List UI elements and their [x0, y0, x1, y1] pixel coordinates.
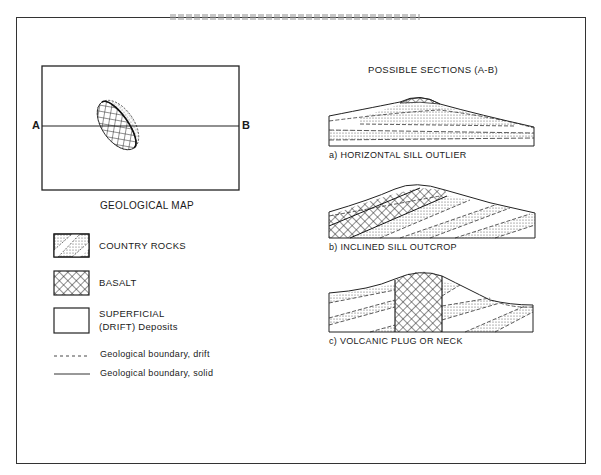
- legend-label-boundary-solid: Geological boundary, solid: [100, 368, 213, 378]
- legend-label-country-rocks: COUNTRY ROCKS: [99, 240, 186, 251]
- diagram-artwork: [0, 0, 601, 475]
- geological-map: [42, 66, 239, 190]
- legend-label-boundary-drift: Geological boundary, drift: [100, 349, 210, 359]
- section-b-artwork: [329, 185, 535, 238]
- section-c-artwork: [329, 272, 533, 332]
- map-title: GEOLOGICAL MAP: [100, 200, 194, 211]
- section-a-artwork: [329, 97, 534, 146]
- legend-swatches: [54, 234, 90, 374]
- legend-label-superficial: SUPERFICIAL: [99, 308, 165, 319]
- sections-title: POSSIBLE SECTIONS (A-B): [368, 64, 498, 75]
- legend-label-basalt: BASALT: [99, 277, 137, 288]
- map-label-a: A: [32, 119, 40, 131]
- map-label-b: B: [242, 119, 250, 131]
- section-c-caption: c) VOLCANIC PLUG OR NECK: [329, 336, 463, 346]
- section-b-caption: b) INCLINED SILL OUTCROP: [329, 242, 457, 252]
- legend-label-drift-deposits: (DRIFT) Deposits: [99, 321, 178, 332]
- section-a-caption: a) HORIZONTAL SILL OUTLIER: [329, 150, 467, 160]
